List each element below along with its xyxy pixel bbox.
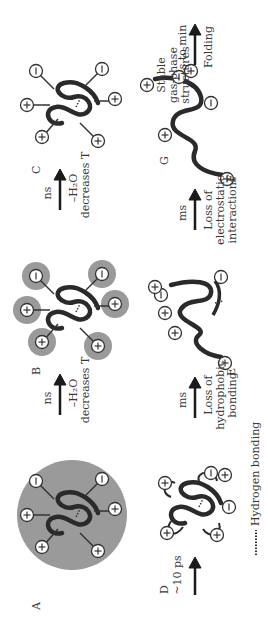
arrow-e-to-f: [189, 189, 201, 230]
diagram-graphics: [0, 0, 268, 640]
arrow-start-to-d: [189, 557, 201, 595]
arrow-ef-line3: interactions: [227, 170, 239, 250]
panel-b-structure: [13, 260, 129, 360]
panel-label-b: B: [30, 367, 43, 375]
g-text-line3: structures: [180, 45, 192, 105]
panel-d-structure: [159, 467, 236, 542]
panel-a-structure: [17, 460, 127, 570]
arrow-b-to-c: [54, 169, 66, 210]
legend-hydrogen-bonding: Hydrogen bonding: [250, 422, 262, 526]
arrow-d-to-e: [189, 377, 201, 418]
arrow-de-line3: bonding: [227, 360, 239, 430]
panel-label-d: D: [158, 585, 171, 594]
arrow-ab-line2: decreases T: [80, 355, 92, 425]
protein-desolvation-diagram: A B C D E F G ns –H₂O decreases T ns –H₂…: [0, 0, 268, 640]
arrow-a-to-b: [54, 374, 66, 415]
arrow-bc-line2: decreases T: [80, 150, 92, 220]
panel-label-a: A: [30, 602, 43, 610]
arrow-fg-line1: Folding: [203, 22, 215, 72]
panel-label-g: G: [158, 156, 171, 165]
arrow-ef-time: ms: [177, 201, 189, 225]
panel-label-c: C: [30, 166, 43, 174]
arrow-ab-time: ns: [42, 386, 54, 410]
arrow-bc-time: ns: [42, 181, 54, 205]
arrow-d-time: ~10 ps: [172, 550, 184, 600]
panel-c-structure: [21, 63, 122, 148]
arrow-de-time: ms: [177, 388, 189, 412]
